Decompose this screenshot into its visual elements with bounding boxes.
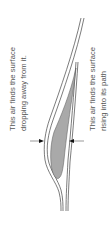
upper-surface-label-line2: dropping away from it. — [18, 47, 29, 131]
lower-surface-label: This air finds the surface rising into i… — [87, 47, 109, 131]
lower-surface-label-line1: This air finds the surface — [87, 47, 98, 131]
upper-surface-label: This air finds the surface dropping away… — [7, 47, 29, 131]
upper-surface-label-line1: This air finds the surface — [7, 47, 18, 131]
arrow-upper-surface-icon — [30, 139, 44, 143]
lower-surface-label-line2: rising into its path — [98, 47, 109, 131]
airfoil-fill — [51, 68, 76, 179]
arrow-lower-surface-icon — [69, 139, 84, 143]
